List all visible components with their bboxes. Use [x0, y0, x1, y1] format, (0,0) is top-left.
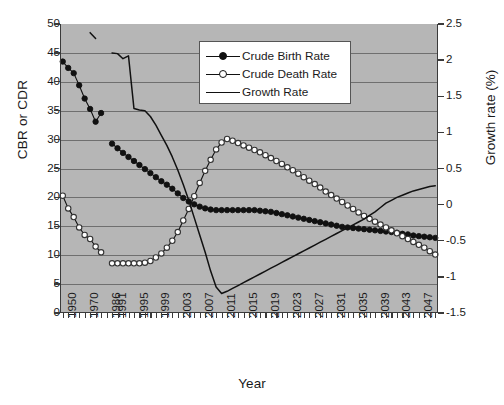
x-axis-tick	[276, 313, 277, 318]
open-circle-icon	[206, 68, 240, 80]
y-axis-left-tick	[54, 312, 60, 313]
y-axis-left-tick	[54, 226, 60, 227]
y-axis-left-tick-label: 10	[0, 249, 60, 260]
x-axis-tick	[156, 313, 157, 318]
x-axis-tick	[408, 313, 409, 318]
y-axis-right-tick-label: -0.5	[446, 235, 502, 246]
x-axis-tick	[211, 313, 212, 318]
y-axis-left-tick	[54, 52, 60, 53]
x-axis-tick	[68, 313, 69, 318]
y-axis-left-tick	[54, 283, 60, 284]
x-axis-tick	[222, 313, 223, 318]
x-axis-tick	[123, 313, 124, 318]
y-axis-left-tick	[54, 110, 60, 111]
x-axis-tick	[309, 313, 310, 318]
y-axis-right-tick-label: 0.5	[446, 163, 502, 174]
y-axis-right-tick	[438, 59, 444, 60]
y-axis-right-tick	[438, 132, 444, 133]
x-axis-tick	[96, 313, 97, 318]
y-axis-right-tick-label: -1	[446, 271, 502, 282]
x-axis-tick	[107, 313, 108, 318]
y-axis-left-title: CBR or CDR	[15, 35, 30, 205]
y-axis-left-tick-label: 20	[0, 191, 60, 202]
x-axis-tick	[194, 313, 195, 318]
y-axis-left-tick	[54, 139, 60, 140]
x-axis-tick	[189, 313, 190, 318]
y-axis-right-tick-label: 2.5	[446, 18, 502, 29]
x-axis-tick	[315, 313, 316, 318]
y-axis-left-tick-label: 0	[0, 307, 60, 318]
chart-legend: Crude Birth Rate Crude Death Rate Growth…	[199, 41, 351, 104]
y-axis-left-tick-label: 40	[0, 76, 60, 87]
y-axis-left-tick-label: 30	[0, 134, 60, 145]
y-axis-left-tick	[54, 168, 60, 169]
y-axis-right-tick	[438, 312, 444, 313]
x-axis-tick	[85, 313, 86, 318]
y-axis-left-tick-label: 35	[0, 105, 60, 116]
x-axis-tick	[282, 313, 283, 318]
x-axis-tick	[139, 313, 140, 318]
x-axis-tick	[364, 313, 365, 318]
x-axis-tick	[249, 313, 250, 318]
x-axis-tick	[342, 313, 343, 318]
y-axis-right-tick	[438, 276, 444, 277]
x-axis-tick	[205, 313, 206, 318]
x-axis-tick	[150, 313, 151, 318]
series-crude-death-rate	[60, 136, 438, 266]
x-axis-tick	[337, 313, 338, 318]
x-axis-tick	[419, 313, 420, 318]
x-axis-tick	[413, 313, 414, 318]
x-axis-tick	[90, 313, 91, 318]
x-axis-tick	[118, 313, 119, 318]
y-axis-left-tick-label: 45	[0, 47, 60, 58]
x-axis-tick	[200, 313, 201, 318]
y-axis-right-tick-label: 1	[446, 126, 502, 137]
x-axis-tick	[244, 313, 245, 318]
x-axis-tick	[381, 313, 382, 318]
x-axis-tick	[79, 313, 80, 318]
legend-item: Crude Birth Rate	[206, 47, 350, 65]
legend-label: Crude Birth Rate	[240, 50, 330, 62]
x-axis-tick	[293, 313, 294, 318]
x-axis-tick	[402, 313, 403, 318]
x-axis-tick	[216, 313, 217, 318]
x-axis-tick	[74, 313, 75, 318]
y-axis-right-tick	[438, 204, 444, 205]
x-axis-tick	[391, 313, 392, 318]
x-axis-tick	[161, 313, 162, 318]
x-axis-tick	[227, 313, 228, 318]
x-axis-tick	[424, 313, 425, 318]
y-axis-left-tick-label: 25	[0, 163, 60, 174]
x-axis-tick	[386, 313, 387, 318]
y-axis-right-tick-label: -1.5	[446, 307, 502, 318]
y-axis-right-tick-label: 2	[446, 54, 502, 65]
y-axis-right-tick	[438, 240, 444, 241]
x-axis-tick	[167, 313, 168, 318]
x-axis-tick	[238, 313, 239, 318]
y-axis-left-tick	[54, 23, 60, 24]
y-axis-right-tick	[438, 168, 444, 169]
y-axis-left-tick-label: 15	[0, 220, 60, 231]
x-axis-tick	[134, 313, 135, 318]
y-axis-left-tick-label: 50	[0, 18, 60, 29]
x-axis-tick	[353, 313, 354, 318]
x-axis-tick	[255, 313, 256, 318]
x-axis-tick	[320, 313, 321, 318]
y-axis-right-tick	[438, 23, 444, 24]
x-axis-tick	[348, 313, 349, 318]
legend-item: Crude Death Rate	[206, 65, 350, 83]
x-axis-tick	[233, 313, 234, 318]
y-axis-right-tick-label: 0	[446, 199, 502, 210]
x-axis-tick	[359, 313, 360, 318]
x-axis-tick	[326, 313, 327, 318]
x-axis-tick	[271, 313, 272, 318]
y-axis-left-tick	[54, 197, 60, 198]
legend-label: Crude Death Rate	[240, 68, 337, 80]
x-axis-tick	[435, 313, 436, 318]
x-axis-tick	[304, 313, 305, 318]
y-axis-left-tick	[54, 255, 60, 256]
legend-label: Growth Rate	[240, 86, 308, 98]
x-axis-tick	[287, 313, 288, 318]
x-axis-tick	[331, 313, 332, 318]
chart-figure: CBR or CDR Growth rate (%) Year Crude Bi…	[0, 0, 504, 405]
